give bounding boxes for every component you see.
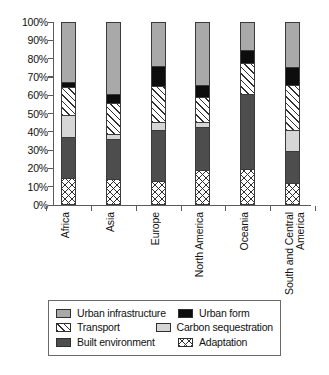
chart-legend: Urban infrastructureUrban formTransportC… <box>48 300 281 356</box>
bar-segment-transport <box>62 88 75 116</box>
bar-segment-built-environment <box>196 128 209 171</box>
x-axis-tick-mark <box>136 206 137 211</box>
bar-segment-built-environment <box>62 138 75 179</box>
x-axis-tick-mark <box>315 206 316 211</box>
legend-item-urban-infrastructure[interactable]: Urban infrastructure <box>56 308 178 319</box>
legend-row: Urban infrastructureUrban form <box>56 306 273 321</box>
figure-caption-strip <box>0 363 329 375</box>
legend-item-adaptation[interactable]: Adaptation <box>178 337 247 348</box>
legend-item-urban-form[interactable]: Urban form <box>178 308 250 319</box>
bar-segment-adaptation <box>286 184 299 204</box>
bar-segment-urban-infrastructure <box>286 23 299 68</box>
legend-swatch-urban-form <box>178 309 193 318</box>
bar-segment-transport <box>107 104 120 136</box>
bar-segment-carbon-sequestration <box>152 123 165 130</box>
bar-segment-carbon-sequestration <box>62 116 75 138</box>
bar-segment-transport <box>152 87 165 123</box>
legend-label: Urban form <box>199 308 250 319</box>
bar-segment-urban-infrastructure <box>241 23 254 51</box>
legend-swatch-adaptation <box>178 338 193 347</box>
bar-segment-urban-infrastructure <box>196 23 209 86</box>
bar-segment-urban-form <box>286 68 299 86</box>
legend-label: Transport <box>77 322 120 333</box>
bar-segment-urban-form <box>196 86 209 98</box>
stacked-bar-chart: 100%90%80%70%60%50%40%30%20%10%0% Africa… <box>0 0 329 300</box>
bar-segment-built-environment <box>107 140 120 180</box>
bar-segment-built-environment <box>152 131 165 183</box>
x-axis-tick-mark <box>270 206 271 211</box>
bar-segment-urban-form <box>152 67 165 87</box>
bar-segment-built-environment <box>241 95 254 169</box>
legend-label: Carbon sequestration <box>177 322 273 333</box>
bar-segment-transport <box>286 86 299 130</box>
x-axis-tick-label: North America <box>194 212 205 277</box>
legend-label: Urban infrastructure <box>77 308 166 319</box>
bar-asia[interactable] <box>106 22 121 205</box>
legend-swatch-urban-infrastructure <box>56 309 71 318</box>
bar-north-america[interactable] <box>195 22 210 205</box>
legend-row: TransportCarbon sequestration <box>56 321 273 336</box>
bar-segment-adaptation <box>107 180 120 204</box>
legend-swatch-carbon-sequestration <box>156 323 171 332</box>
x-axis-tick-label: Africa <box>60 212 71 238</box>
bars-layer <box>0 22 329 205</box>
bar-south-and-central-america[interactable] <box>285 22 300 205</box>
bar-segment-urban-form <box>107 95 120 103</box>
x-axis-tick-label: South and Central America <box>284 212 306 295</box>
bar-segment-adaptation <box>62 179 75 204</box>
legend-row: Built environmentAdaptation <box>56 335 273 350</box>
legend-item-transport[interactable]: Transport <box>56 322 156 333</box>
legend-item-built-environment[interactable]: Built environment <box>56 337 178 348</box>
bar-oceania[interactable] <box>240 22 255 205</box>
bar-segment-transport <box>241 64 254 96</box>
bar-segment-transport <box>196 98 209 122</box>
x-axis-tick-mark <box>181 206 182 211</box>
x-axis-tick-label: Oceania <box>239 212 250 250</box>
x-axis-tick-mark <box>91 206 92 211</box>
bar-segment-urban-infrastructure <box>152 23 165 67</box>
bar-segment-adaptation <box>152 182 165 204</box>
bar-segment-carbon-sequestration <box>286 131 299 152</box>
legend-swatch-built-environment <box>56 338 71 347</box>
bar-africa[interactable] <box>61 22 76 205</box>
bar-segment-urban-form <box>241 51 254 64</box>
bar-segment-urban-infrastructure <box>107 23 120 95</box>
x-axis-tick-mark <box>46 206 47 211</box>
legend-label: Built environment <box>77 337 155 348</box>
x-axis-tick-label: Europe <box>150 212 161 245</box>
bar-europe[interactable] <box>151 22 166 205</box>
x-axis-tick-label: Asia <box>105 212 116 232</box>
x-axis-tick-mark <box>225 206 226 211</box>
bar-segment-adaptation <box>196 171 209 204</box>
legend-item-carbon-sequestration[interactable]: Carbon sequestration <box>156 322 273 333</box>
bar-segment-built-environment <box>286 152 299 185</box>
legend-swatch-transport <box>56 323 71 332</box>
bar-segment-urban-infrastructure <box>62 23 75 83</box>
legend-label: Adaptation <box>199 337 247 348</box>
bar-segment-adaptation <box>241 170 254 204</box>
